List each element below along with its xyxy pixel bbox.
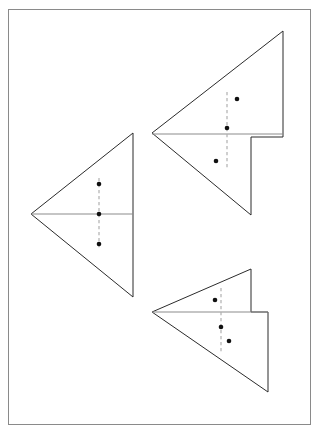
top-right-hole-on-crease xyxy=(225,126,230,131)
top-right-hole-lower-left xyxy=(214,159,219,164)
left-triangle-outline xyxy=(31,133,133,297)
page-border-rect xyxy=(9,10,311,425)
figure-top-right-folded xyxy=(152,31,283,215)
page-canvas xyxy=(0,0,319,434)
left-triangle-hole-middle xyxy=(97,212,102,217)
bottom-right-hole-on-crease xyxy=(219,325,224,330)
bottom-right-shape-outline xyxy=(152,269,268,392)
top-right-shape-outline xyxy=(152,31,283,215)
bottom-right-hole-upper-left xyxy=(213,298,218,303)
left-triangle-hole-top xyxy=(97,182,102,187)
bottom-right-hole-lower-right xyxy=(227,339,232,344)
figure-drawing-area xyxy=(0,0,319,434)
top-right-hole-upper-right xyxy=(235,97,240,102)
left-triangle-hole-bottom xyxy=(97,242,102,247)
figure-bottom-right-folded xyxy=(152,269,268,392)
figure-left-unfolded xyxy=(31,133,133,297)
